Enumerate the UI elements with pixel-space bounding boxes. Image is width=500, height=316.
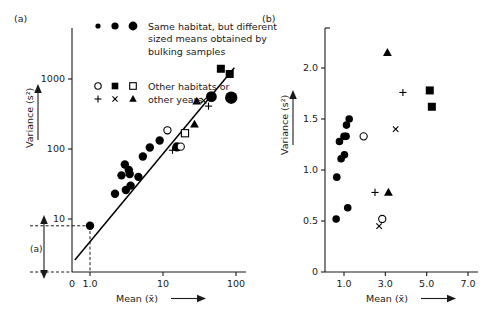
panel-b-y-tick-label: 1.0 bbox=[303, 164, 318, 175]
legend-row-1-line: Other habitats or bbox=[148, 81, 230, 92]
panel-a-x-tick-label: 100 bbox=[227, 278, 245, 289]
marker-circle-filled bbox=[86, 222, 94, 230]
square-open-icon bbox=[130, 83, 137, 90]
square-filled-icon bbox=[428, 103, 436, 111]
panel-b-x-axis-arrow bbox=[421, 295, 456, 302]
circle-filled-icon bbox=[342, 133, 350, 141]
marker-triangle-filled bbox=[129, 95, 136, 102]
panel-a-x-axis-title: Mean (x̄) bbox=[116, 293, 158, 304]
circle-filled-icon bbox=[111, 22, 118, 29]
marker-circle-filled bbox=[126, 181, 134, 189]
marker-circle-open bbox=[360, 133, 367, 140]
legend-row-0-line: bulking samples bbox=[148, 46, 225, 57]
circle-open-icon bbox=[95, 83, 101, 89]
square-filled-icon bbox=[217, 65, 225, 73]
panel-b-y-tick-label: 2.0 bbox=[303, 62, 318, 73]
marker-circle-filled bbox=[95, 23, 100, 28]
marker-circle-filled bbox=[345, 115, 353, 123]
square-open-icon bbox=[181, 130, 188, 137]
circle-filled-icon bbox=[129, 22, 138, 31]
circle-filled-icon bbox=[86, 222, 94, 230]
marker-square-filled bbox=[226, 70, 234, 78]
marker-square-filled bbox=[426, 86, 434, 94]
panel-a-y-tick-label: 10 bbox=[53, 213, 65, 224]
triangle-filled-icon bbox=[384, 188, 393, 196]
circle-filled-icon bbox=[225, 92, 237, 104]
marker-square-open bbox=[130, 83, 137, 90]
panel-b-x-axis-title: Mean (x̄) bbox=[366, 293, 408, 304]
legend-row-0-line: Same habitat, but different bbox=[148, 21, 277, 32]
panel-a-offset-label: (a) bbox=[30, 244, 43, 254]
panel-b-y-axis-arrow bbox=[289, 90, 297, 145]
circle-filled-icon bbox=[345, 115, 353, 123]
square-filled-icon bbox=[226, 70, 234, 78]
circle-filled-icon bbox=[146, 143, 154, 151]
marker-plus bbox=[399, 89, 406, 96]
circle-filled-icon bbox=[126, 170, 134, 178]
marker-circle-open bbox=[177, 143, 184, 150]
panel-b-y-tick-label: 0 bbox=[312, 266, 318, 277]
panel-a-offset-annotation: (a) bbox=[30, 215, 48, 279]
circle-filled-icon bbox=[344, 204, 352, 212]
circle-open-icon bbox=[360, 133, 367, 140]
marker-circle-filled bbox=[139, 152, 147, 160]
panel-b-y-tick-label: 1.5 bbox=[303, 113, 318, 124]
marker-plus bbox=[95, 96, 102, 103]
marker-plus bbox=[371, 189, 378, 196]
triangle-filled-icon bbox=[383, 48, 392, 56]
marker-circle-filled bbox=[155, 136, 163, 144]
square-filled-icon bbox=[112, 83, 119, 90]
panel-b-y-axis-title: Variance (s²) bbox=[279, 95, 290, 155]
circle-filled-icon bbox=[332, 215, 340, 223]
marker-circle-filled bbox=[134, 173, 142, 181]
marker-square-filled bbox=[112, 83, 119, 90]
marker-triangle-filled bbox=[383, 48, 392, 56]
panel-a: (a) 10100100001.010100 Variance (s²) Mea… bbox=[14, 13, 277, 304]
panel-b-label: (b) bbox=[262, 13, 275, 24]
circle-filled-icon bbox=[341, 151, 349, 159]
panel-a-x-tick-label: 1.0 bbox=[82, 278, 97, 289]
legend-row-0-line: sized means obtained by bbox=[148, 33, 267, 44]
marker-triangle-filled bbox=[384, 188, 393, 196]
marker-square-filled bbox=[428, 103, 436, 111]
circle-open-icon bbox=[177, 143, 184, 150]
square-filled-icon bbox=[426, 86, 434, 94]
marker-square-open bbox=[181, 130, 188, 137]
circle-open-icon bbox=[379, 215, 386, 222]
legend-row-2-line: other years bbox=[148, 94, 203, 105]
marker-circle-filled bbox=[341, 151, 349, 159]
marker-circle-filled bbox=[332, 215, 340, 223]
marker-cross bbox=[376, 223, 381, 228]
marker-cross bbox=[112, 96, 117, 101]
circle-filled-icon bbox=[111, 189, 119, 197]
marker-circle-filled bbox=[333, 173, 341, 181]
variance-mean-figure: (a) 10100100001.010100 Variance (s²) Mea… bbox=[0, 0, 500, 316]
panel-b-x-tick-label: 5.0 bbox=[419, 278, 434, 289]
panel-a-y-tick-label: 100 bbox=[47, 143, 65, 154]
panel-b-data-points bbox=[332, 48, 435, 229]
marker-circle-open bbox=[379, 215, 386, 222]
circle-open-icon bbox=[164, 127, 171, 134]
marker-circle-filled bbox=[117, 171, 125, 179]
marker-circle-filled bbox=[126, 170, 134, 178]
panel-a-y-axis-arrow bbox=[34, 84, 42, 140]
panel-b: (b) 00.51.01.52.01.03.05.07.0 Variance (… bbox=[262, 13, 478, 304]
circle-filled-icon bbox=[206, 91, 217, 102]
circle-filled-icon bbox=[95, 23, 100, 28]
panel-a-x-axis-arrow bbox=[171, 295, 206, 302]
marker-circle-open bbox=[95, 83, 101, 89]
panel-a-y-axis-title: Variance (s²) bbox=[24, 88, 35, 148]
panel-b-y-tick-label: 0.5 bbox=[303, 215, 318, 226]
marker-circle-filled bbox=[342, 133, 350, 141]
marker-circle-filled bbox=[111, 189, 119, 197]
panel-b-x-tick-label: 3.0 bbox=[378, 278, 393, 289]
marker-square-filled bbox=[217, 65, 225, 73]
figure-container: (a) 10100100001.010100 Variance (s²) Mea… bbox=[0, 0, 500, 316]
circle-filled-icon bbox=[117, 171, 125, 179]
circle-filled-icon bbox=[155, 136, 163, 144]
panel-a-y-tick-label: 1000 bbox=[41, 73, 65, 84]
marker-circle-filled bbox=[344, 204, 352, 212]
panel-b-x-tick-label: 7.0 bbox=[460, 278, 475, 289]
marker-circle-filled bbox=[129, 22, 138, 31]
panel-a-x-tick-label: 10 bbox=[157, 278, 169, 289]
